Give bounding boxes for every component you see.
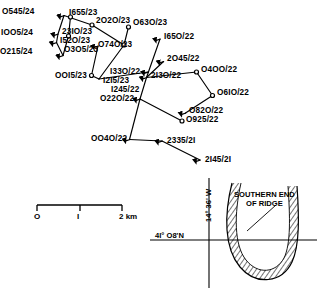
station-label: O3O5/23 <box>64 46 98 54</box>
station-label: I33O/22 <box>110 68 140 76</box>
station-label: IOO5/24 <box>1 29 33 37</box>
leg-0040-2335 <box>130 140 163 142</box>
station-label: O63O/23 <box>133 19 167 27</box>
station-label: O4OO/22 <box>201 66 237 74</box>
station-node-arrow <box>59 56 64 58</box>
map-vector-layer <box>0 0 317 293</box>
station-node-arrow <box>196 160 201 162</box>
ship-track-map-figure: O545/24IOO5/24O215/24I655/232O2O/23O63O/… <box>0 0 317 293</box>
station-label: 2335/2I <box>167 137 195 145</box>
station-label: 2I45/2I <box>205 156 231 164</box>
station-label: 23IO/23 <box>62 28 92 36</box>
ridge-annotation-line2: OF RIDGE <box>246 199 283 208</box>
station-label: 2I3O/22 <box>151 72 181 80</box>
station-label: OOI5/23 <box>55 72 87 80</box>
station-node-arrow <box>52 43 57 45</box>
station-label: I52O/23 <box>60 37 90 45</box>
scale-tick-label: I <box>77 213 79 221</box>
station-label: O74O/23 <box>98 41 132 49</box>
ridge-annotation: SOUTHERN END OF RIDGE <box>234 190 295 209</box>
station-label: I2I5/23 <box>103 77 129 85</box>
station-label: 2O2O/23 <box>96 17 130 25</box>
station-label: O545/24 <box>2 8 34 16</box>
station-label: 2O45/22 <box>167 55 199 63</box>
station-node-arrow <box>159 62 164 64</box>
station-label: O22O/22 <box>100 95 134 103</box>
station-label: O925/22 <box>186 116 218 124</box>
station-label: I655/23 <box>69 9 97 17</box>
station-label: I245/22 <box>111 86 139 94</box>
station-label: O82O/22 <box>189 107 223 115</box>
station-node-circle <box>195 70 199 74</box>
ridge-annotation-line1: SOUTHERN END <box>234 190 295 199</box>
leg-2130-0220 <box>140 78 147 100</box>
station-label: O215/24 <box>0 48 32 56</box>
station-label: O6IO/22 <box>217 89 249 97</box>
longitude-label: 14° 36' W <box>205 189 213 222</box>
scale-tick-label: O <box>34 213 40 221</box>
latitude-label: 4I° O8'N <box>155 232 184 240</box>
station-node-circle <box>90 74 94 78</box>
station-node-circle <box>211 94 215 98</box>
station-node-circle <box>180 119 184 123</box>
scale-bar-graphic <box>37 205 122 211</box>
station-node-circle <box>127 25 131 29</box>
leg-0220-0925 <box>140 99 182 121</box>
leg-0400-0610 <box>197 72 213 96</box>
leg-0220-0040 <box>130 99 141 140</box>
station-label: I65O/22 <box>164 33 194 41</box>
scale-tick-label: 2 km <box>119 213 137 221</box>
station-label: OO4O/22 <box>91 135 127 143</box>
